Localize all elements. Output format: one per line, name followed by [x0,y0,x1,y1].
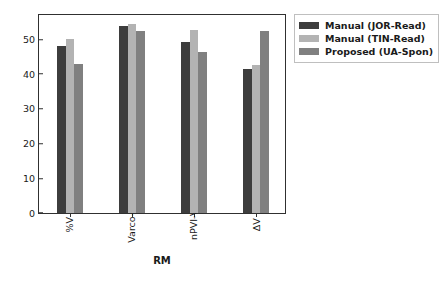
x-axis-label-wrap: %V [62,218,78,258]
bar [260,31,269,213]
bar [74,64,83,213]
y-axis-tick: 10 [23,174,39,184]
y-axis-tick: 50 [23,35,39,45]
x-axis-label-wrap: ΔV [250,218,263,258]
bar [190,30,199,213]
y-axis-tick-mark [39,213,43,214]
y-axis-tick-mark [39,178,43,179]
bar [57,46,66,213]
bar [198,52,207,213]
y-axis-tick-mark [39,39,43,40]
x-axis-tick-label: nPVI-V [189,209,199,239]
chart-legend: Manual (JOR-Read)Manual (TIN-Read)Propos… [294,14,439,63]
legend-item: Manual (JOR-Read) [299,19,433,32]
bar [252,65,261,213]
y-axis-tick: 40 [23,69,39,79]
y-axis-tick: 0 [29,208,39,218]
legend-color-swatch [299,22,319,29]
bar [128,24,137,213]
bar [66,39,75,213]
plot-area: 01020304050 %VVarco-VnPVI-VΔV [38,14,286,214]
y-axis-tick-mark [39,143,43,144]
y-axis-tick: 30 [23,104,39,114]
bar [243,69,252,213]
legend-label: Proposed (UA-Spon) [325,47,433,57]
legend-item: Proposed (UA-Spon) [299,45,433,58]
y-axis-tick-label: 0 [29,208,39,218]
plot-inner: 01020304050 %VVarco-VnPVI-VΔV [39,15,285,213]
x-axis-title: RM [38,255,286,266]
y-axis-tick: 20 [23,139,39,149]
bar [136,31,145,213]
x-axis-label-wrap: Varco-V [114,218,150,258]
x-axis-tick-label: ΔV [251,218,261,231]
y-axis-tick-label: 10 [23,174,39,184]
x-axis-label-wrap: nPVI-V [179,218,209,258]
x-axis-tick-mark [256,213,257,217]
bar [119,26,128,213]
bar [181,42,190,213]
legend-color-swatch [299,35,319,42]
legend-label: Manual (JOR-Read) [325,21,426,31]
y-axis-tick-mark [39,74,43,75]
legend-item: Manual (TIN-Read) [299,32,433,45]
y-axis-tick-label: 30 [23,104,39,114]
x-axis-tick-label: %V [65,216,75,232]
y-axis-tick-label: 20 [23,139,39,149]
y-axis-tick-mark [39,108,43,109]
legend-color-swatch [299,48,319,55]
y-axis-tick-label: 40 [23,69,39,79]
legend-label: Manual (TIN-Read) [325,34,425,44]
y-axis-tick-label: 50 [23,35,39,45]
